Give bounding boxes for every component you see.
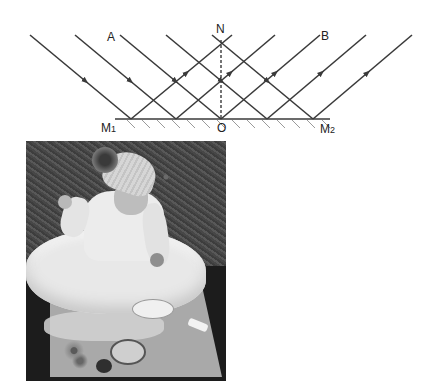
- hatch-mark: [232, 120, 240, 128]
- label-m2: M2: [320, 122, 335, 136]
- hatch-mark: [172, 120, 180, 128]
- hatch-mark: [307, 120, 315, 128]
- reflected-ray: [221, 35, 320, 119]
- mirror-hatching: [127, 120, 330, 128]
- label-o: O: [217, 121, 226, 135]
- hat-pompom: [92, 147, 118, 173]
- shoe-reflection: [110, 339, 146, 365]
- label-m1: M1: [101, 121, 116, 135]
- reflection-diagram: N A B M1 O M2: [0, 0, 435, 140]
- left-hand: [58, 195, 72, 209]
- hatch-mark: [157, 120, 165, 128]
- pompom-reflection: [96, 359, 112, 373]
- hatch-mark: [262, 120, 270, 128]
- incident-ray: [120, 35, 221, 119]
- label-b: B: [321, 29, 329, 43]
- hatch-mark: [292, 120, 300, 128]
- hatch-mark: [127, 120, 135, 128]
- incident-ray: [212, 35, 313, 119]
- label-n: N: [216, 22, 225, 36]
- hatch-mark: [202, 120, 210, 128]
- hatch-mark: [187, 120, 195, 128]
- hatch-mark: [277, 120, 285, 128]
- flower-reflection: [62, 337, 92, 371]
- reflected-ray: [267, 35, 366, 119]
- reflected-ray: [313, 35, 412, 119]
- baby-mirror-photo: [26, 141, 226, 381]
- label-a: A: [107, 30, 115, 44]
- baby-shoe: [132, 299, 174, 319]
- right-hand: [150, 253, 164, 267]
- hatch-mark: [142, 120, 150, 128]
- reflected-rays: [131, 35, 412, 119]
- hatch-mark: [247, 120, 255, 128]
